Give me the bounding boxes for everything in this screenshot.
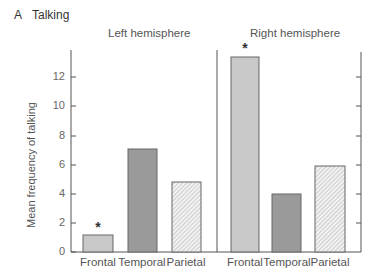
tick-label-2: 2 [45, 216, 65, 228]
right-y-ticks [356, 77, 361, 223]
bar-left-temporal [128, 149, 157, 252]
y-ticks [71, 77, 76, 252]
bar-right-frontal [231, 57, 259, 252]
x-label-left-parietal: Parietal [161, 256, 211, 268]
bar-left-frontal [83, 235, 113, 252]
tick-label-0: 0 [45, 245, 65, 257]
bar-right-temporal [272, 194, 301, 252]
x-label-right-parietal: Parietal [305, 256, 355, 268]
tick-label-4: 4 [45, 187, 65, 199]
x-label-left-temporal: Temporal [117, 256, 167, 268]
tick-label-10: 10 [45, 99, 65, 111]
x-label-left-frontal: Frontal [73, 256, 123, 268]
significance-star-right-frontal: * [235, 40, 255, 56]
bar-left-parietal [172, 182, 201, 252]
tick-label-6: 6 [45, 158, 65, 170]
significance-star-left-frontal: * [88, 219, 108, 235]
tick-label-12: 12 [45, 70, 65, 82]
bar-right-parietal [315, 166, 345, 252]
tick-label-8: 8 [45, 129, 65, 141]
